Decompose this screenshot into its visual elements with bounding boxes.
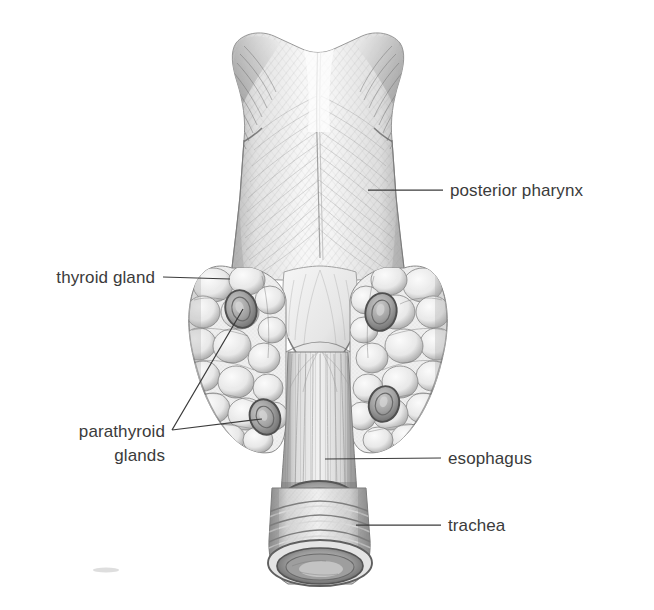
tracheal-lumen — [268, 540, 372, 586]
esophagus-structure — [278, 342, 362, 498]
anatomy-figure: posterior pharynx thyroid gland parathyr… — [0, 0, 654, 610]
label-thyroid-gland: thyroid gland — [56, 268, 155, 287]
label-esophagus: esophagus — [448, 449, 532, 468]
scan-artifact-smudge — [93, 567, 119, 572]
posterior-pharynx-structure — [225, 28, 411, 288]
label-posterior-pharynx: posterior pharynx — [450, 181, 583, 200]
anatomy-illustration: posterior pharynx thyroid gland parathyr… — [0, 0, 654, 610]
label-parathyroid-glands-line2: glands — [114, 446, 165, 465]
label-parathyroid-glands-line1: parathyroid — [79, 422, 165, 441]
label-trachea: trachea — [448, 516, 506, 535]
thyroid-gland-right-lobe — [345, 260, 455, 460]
